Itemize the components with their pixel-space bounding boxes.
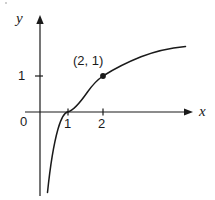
x-axis-tick-label-1: 1 <box>64 117 71 130</box>
plot-canvas <box>0 0 215 200</box>
y-axis-arrowhead <box>36 15 43 24</box>
x-axis-label: x <box>199 104 206 119</box>
x-axis-tick-label-2: 2 <box>98 117 105 130</box>
point-marker-2-1 <box>100 73 106 79</box>
y-axis <box>36 15 43 196</box>
function-graph-figure: y x 0 1 1 2 (2, 1) <box>0 0 215 200</box>
y-axis-label: y <box>16 11 23 26</box>
point-coordinate-label: (2, 1) <box>73 54 103 67</box>
origin-label: 0 <box>20 115 27 128</box>
x-axis-arrowhead <box>184 108 193 115</box>
y-axis-tick-label-1: 1 <box>18 69 25 82</box>
x-axis <box>25 108 193 115</box>
